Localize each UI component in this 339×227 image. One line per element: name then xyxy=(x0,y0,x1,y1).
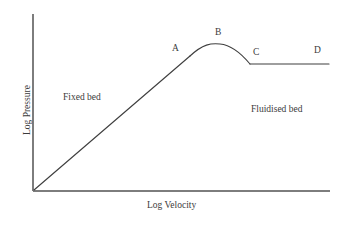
peak-hump-curve xyxy=(190,44,250,64)
region-label-fluidised-bed: Fluidised bed xyxy=(251,105,302,115)
y-axis-title: Log Pressure xyxy=(23,85,33,135)
point-label-d: D xyxy=(314,46,321,56)
fixed-bed-line-segment xyxy=(34,56,190,190)
point-label-b: B xyxy=(215,28,222,38)
region-label-fixed-bed: Fixed bed xyxy=(63,93,101,103)
x-axis-title: Log Velocity xyxy=(147,201,196,211)
point-label-c: C xyxy=(253,48,260,58)
point-label-a: A xyxy=(172,44,179,54)
fluidisation-chart-figure: A B C D Fixed bed Fluidised bed Log Velo… xyxy=(0,0,339,227)
